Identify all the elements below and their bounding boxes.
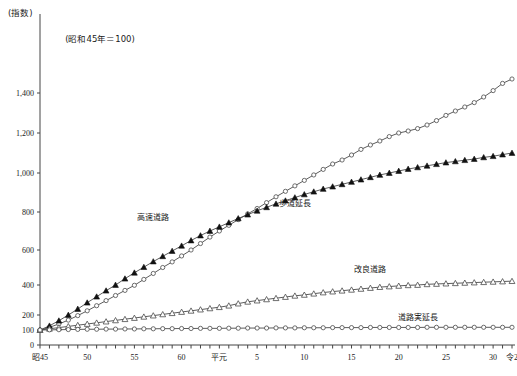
data-point bbox=[94, 294, 100, 299]
data-point bbox=[368, 143, 372, 147]
data-point bbox=[217, 326, 221, 330]
data-point bbox=[293, 326, 297, 330]
data-point bbox=[509, 150, 515, 155]
data-point bbox=[113, 282, 119, 287]
data-point bbox=[161, 327, 165, 331]
data-point bbox=[274, 195, 278, 199]
data-point bbox=[472, 325, 476, 329]
data-point bbox=[510, 77, 514, 81]
data-point bbox=[387, 325, 391, 329]
data-point bbox=[76, 327, 80, 331]
data-point bbox=[246, 326, 250, 330]
series-label-0: 高速道路 bbox=[137, 212, 169, 222]
data-point bbox=[340, 158, 344, 162]
data-point bbox=[65, 312, 71, 317]
data-point bbox=[216, 224, 222, 229]
data-point bbox=[283, 326, 287, 330]
data-point bbox=[104, 299, 108, 303]
x-tick-label: 昭45 bbox=[32, 353, 48, 362]
x-tick-label: 令2 bbox=[506, 352, 517, 362]
data-point bbox=[491, 325, 495, 329]
data-point bbox=[160, 253, 166, 258]
x-tick-label: 50 bbox=[83, 353, 91, 362]
data-point bbox=[255, 326, 259, 330]
x-axis-ticks: 昭45505560平元51015202530令2 bbox=[32, 345, 517, 362]
data-point bbox=[207, 228, 213, 233]
data-point bbox=[198, 233, 204, 238]
data-point bbox=[142, 277, 146, 281]
x-tick-label: 15 bbox=[348, 353, 356, 362]
data-point bbox=[226, 220, 232, 225]
data-point bbox=[425, 123, 429, 127]
data-point bbox=[406, 129, 410, 133]
x-tick-label: 5 bbox=[255, 353, 259, 362]
data-point bbox=[491, 89, 495, 93]
data-point bbox=[47, 328, 51, 332]
series-2: 改良道路 bbox=[37, 264, 515, 332]
data-point bbox=[113, 293, 117, 297]
index-line-chart: 01002004006008001,0001,2001,400昭45505560… bbox=[0, 0, 517, 376]
data-point bbox=[132, 283, 136, 287]
data-point bbox=[264, 204, 270, 209]
data-point bbox=[198, 326, 202, 330]
data-point bbox=[85, 327, 89, 331]
data-point bbox=[312, 173, 316, 177]
x-tick-label: 平元 bbox=[211, 353, 227, 362]
data-point bbox=[151, 271, 155, 275]
data-point bbox=[189, 326, 193, 330]
data-point bbox=[321, 326, 325, 330]
data-point bbox=[161, 265, 165, 269]
data-point bbox=[444, 113, 448, 117]
data-point bbox=[217, 229, 221, 233]
y-tick-label: 800 bbox=[22, 208, 34, 217]
series-1: 歩道延長 bbox=[37, 150, 515, 332]
x-tick-label: 10 bbox=[300, 353, 308, 362]
data-point bbox=[66, 318, 70, 322]
data-point bbox=[368, 325, 372, 329]
data-point bbox=[500, 325, 504, 329]
data-point bbox=[123, 288, 127, 292]
y-tick-label: 100 bbox=[22, 326, 34, 335]
y-tick-label: 0 bbox=[30, 341, 34, 350]
data-point bbox=[312, 326, 316, 330]
data-point bbox=[264, 326, 268, 330]
x-tick-label: 60 bbox=[178, 353, 186, 362]
data-point bbox=[57, 328, 61, 332]
series-3: 道路実延長 bbox=[38, 312, 514, 332]
series-label-1: 歩道延長 bbox=[279, 198, 311, 208]
data-point bbox=[180, 254, 184, 258]
data-point bbox=[331, 326, 335, 330]
data-point bbox=[397, 325, 401, 329]
data-point bbox=[378, 139, 382, 143]
data-point bbox=[198, 241, 202, 245]
x-tick-label: 30 bbox=[489, 353, 497, 362]
data-point bbox=[180, 326, 184, 330]
data-point bbox=[56, 318, 62, 323]
data-point bbox=[378, 325, 382, 329]
data-point bbox=[472, 101, 476, 105]
data-point bbox=[283, 189, 287, 193]
data-point bbox=[132, 327, 136, 331]
x-tick-label: 55 bbox=[130, 353, 138, 362]
data-point bbox=[453, 325, 457, 329]
data-point bbox=[170, 327, 174, 331]
data-point bbox=[274, 326, 278, 330]
data-point bbox=[434, 119, 438, 123]
y-tick-label: 400 bbox=[22, 281, 34, 290]
data-point bbox=[444, 325, 448, 329]
data-point bbox=[321, 167, 325, 171]
y-axis-ticks: 01002004006008001,0001,2001,400 bbox=[16, 89, 40, 350]
axes bbox=[40, 14, 515, 345]
data-point bbox=[189, 248, 193, 252]
data-point bbox=[208, 235, 212, 239]
y-tick-label: 600 bbox=[22, 246, 34, 255]
data-point bbox=[95, 304, 99, 308]
data-point bbox=[463, 325, 467, 329]
data-point bbox=[482, 325, 486, 329]
data-point bbox=[141, 264, 147, 269]
x-tick-label: 25 bbox=[442, 353, 450, 362]
data-point bbox=[397, 131, 401, 135]
data-point bbox=[349, 326, 353, 330]
data-point bbox=[340, 326, 344, 330]
x-tick-label: 20 bbox=[395, 353, 403, 362]
